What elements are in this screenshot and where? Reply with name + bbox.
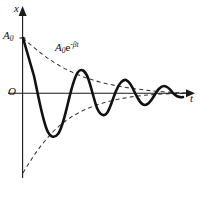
envelope-exponent: -βt: [70, 40, 78, 49]
x-axis-arrowhead: [19, 6, 27, 16]
amplitude-subscript: 0: [10, 34, 14, 43]
envelope-equation-label: A0e-βt: [55, 41, 79, 54]
t-axis-label: t: [190, 93, 193, 104]
plot-canvas: [0, 0, 200, 197]
damped-oscillation-figure: x t O A0 A0e-βt: [0, 0, 200, 197]
envelope-base: A: [55, 41, 62, 53]
origin-label: O: [8, 86, 16, 97]
amplitude-base: A: [3, 29, 10, 41]
x-axis-label: x: [14, 3, 19, 14]
initial-amplitude-label: A0: [3, 30, 13, 43]
damped-oscillation-curve: [23, 38, 183, 137]
